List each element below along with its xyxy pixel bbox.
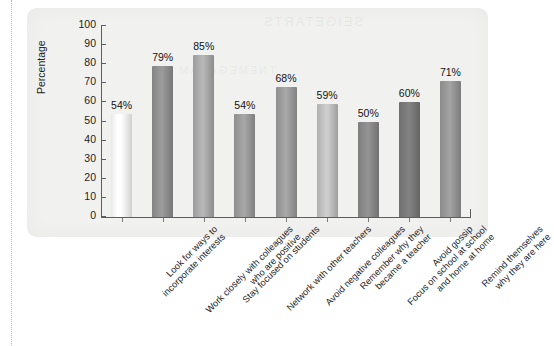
bar: 60% bbox=[399, 102, 420, 217]
x-axis-tick-mark bbox=[368, 218, 369, 222]
y-axis-tick-label: 70 bbox=[84, 75, 96, 87]
bar: 50% bbox=[358, 122, 379, 218]
y-axis-tick-mark bbox=[101, 63, 106, 64]
y-axis-tick-label: 40 bbox=[84, 133, 96, 145]
x-axis-tick-mark bbox=[286, 218, 287, 222]
y-axis-tick-label: 50 bbox=[84, 114, 96, 126]
x-axis-tick-mark bbox=[122, 218, 123, 222]
y-axis-tick-label: 30 bbox=[84, 152, 96, 164]
y-axis-tick-label: 10 bbox=[84, 190, 96, 202]
y-axis-tick-mark bbox=[101, 101, 106, 102]
bar: 71% bbox=[440, 81, 461, 217]
x-axis-tick-mark bbox=[450, 218, 451, 222]
y-axis-tick-mark bbox=[101, 178, 106, 179]
chart-figure-panel: SEIGETARTS TNEMEGANAM Percentage 0102030… bbox=[27, 8, 488, 237]
y-axis-tick-label: 90 bbox=[84, 37, 96, 49]
bar-value-label: 54% bbox=[111, 99, 132, 111]
y-axis-tick-mark bbox=[101, 121, 106, 122]
y-axis-tick-mark bbox=[101, 140, 106, 141]
y-axis-title: Percentage bbox=[35, 40, 47, 94]
bar-value-label: 68% bbox=[275, 72, 296, 84]
y-axis-tick-mark bbox=[101, 197, 106, 198]
bar-value-label: 50% bbox=[358, 107, 379, 119]
y-axis-tick-mark bbox=[101, 216, 106, 217]
x-axis-tick-mark bbox=[327, 218, 328, 222]
y-axis-tick-mark bbox=[101, 44, 106, 45]
y-axis-tick-label: 80 bbox=[84, 56, 96, 68]
y-axis-tick-label: 0 bbox=[90, 209, 96, 221]
y-axis-tick-mark bbox=[101, 159, 106, 160]
x-axis-tick-mark bbox=[245, 218, 246, 222]
bar-value-label: 59% bbox=[317, 89, 338, 101]
bar-value-label: 79% bbox=[152, 51, 173, 63]
y-axis-tick-label: 20 bbox=[84, 171, 96, 183]
y-axis-tick-label: 100 bbox=[78, 18, 96, 30]
y-axis-line bbox=[101, 26, 102, 218]
x-axis-tick-mark bbox=[163, 218, 164, 222]
y-axis-tick-mark bbox=[101, 25, 106, 26]
plot-area: 0102030405060708090100 54%79%85%54%68%59… bbox=[101, 26, 482, 218]
bar-value-label: 60% bbox=[399, 87, 420, 99]
bar: 85% bbox=[193, 55, 214, 217]
bar: 79% bbox=[152, 66, 173, 217]
x-axis-tick-mark bbox=[409, 218, 410, 222]
bar: 54% bbox=[111, 114, 132, 217]
bar-value-label: 85% bbox=[193, 40, 214, 52]
bar: 59% bbox=[317, 104, 338, 217]
bar: 68% bbox=[276, 87, 297, 217]
bar: 54% bbox=[234, 114, 255, 217]
y-axis-tick-mark bbox=[101, 82, 106, 83]
bar-value-label: 71% bbox=[440, 66, 461, 78]
y-axis-tick-label: 60 bbox=[84, 94, 96, 106]
page-edge-dotted-rule bbox=[11, 0, 12, 346]
x-axis-tick-mark bbox=[204, 218, 205, 222]
x-axis-end-cap bbox=[470, 209, 471, 218]
bar-value-label: 54% bbox=[234, 99, 255, 111]
